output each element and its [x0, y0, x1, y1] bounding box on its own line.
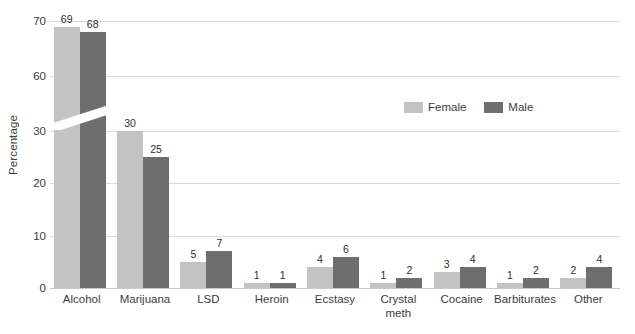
bar-group: 12 — [497, 0, 549, 289]
bar-barbiturates-male — [523, 278, 549, 288]
bar-cocaine-male — [460, 267, 486, 288]
y-tick-label-70: 70 — [6, 15, 46, 27]
y-tick-label-0: 0 — [6, 282, 46, 294]
bar-group: 6968 — [54, 0, 106, 289]
bar-value-label: 4 — [454, 253, 492, 265]
bar-value-label: 2 — [390, 264, 428, 276]
legend-item-male[interactable]: Male — [484, 101, 533, 113]
bar-value-label: 2 — [517, 264, 555, 276]
legend-label: Male — [508, 101, 533, 113]
bar-lsd-female — [180, 262, 206, 288]
x-label-other: Other — [551, 293, 626, 307]
bar-alcohol-male — [80, 32, 106, 288]
bar-other-male — [586, 267, 612, 288]
bar-barbiturates-female — [497, 283, 523, 288]
bar-ecstasy-male — [333, 257, 359, 288]
bar-value-label: 6 — [327, 243, 365, 255]
bar-heroin-male — [270, 283, 296, 288]
bar-group: 12 — [370, 0, 422, 289]
y-tick-label-20: 20 — [6, 177, 46, 189]
x-axis-labels: AlcoholMarijuanaLSDHeroinEcstasyCrystalm… — [50, 293, 620, 334]
legend-item-female[interactable]: Female — [404, 101, 466, 113]
bar-value-label: 30 — [111, 117, 149, 129]
bar-chart: Percentage 01020306070 69683025571146123… — [0, 0, 635, 334]
bar-crystal-meth-male — [396, 278, 422, 288]
bar-group: 11 — [244, 0, 296, 289]
bar-other-female — [560, 278, 586, 288]
y-axis-ticks: 01020306070 — [0, 0, 46, 334]
bar-value-label: 25 — [137, 143, 175, 155]
y-tick-label-60: 60 — [6, 70, 46, 82]
bar-heroin-female — [244, 283, 270, 288]
bar-marijuana-male — [143, 157, 169, 288]
y-tick-label-10: 10 — [6, 230, 46, 242]
bars-layer: 6968302557114612341224 — [50, 0, 620, 289]
bar-lsd-male — [206, 251, 232, 288]
bar-cocaine-female — [434, 272, 460, 288]
y-tick-label-30: 30 — [6, 125, 46, 137]
bar-group: 3025 — [117, 0, 169, 289]
bar-alcohol-female — [54, 27, 80, 289]
legend-swatch-icon — [404, 102, 423, 113]
bar-crystal-meth-female — [370, 283, 396, 288]
bar-value-label: 7 — [200, 237, 238, 249]
bar-ecstasy-female — [307, 267, 333, 288]
bar-group: 24 — [560, 0, 612, 289]
bar-value-label: 1 — [264, 269, 302, 281]
legend-label: Female — [428, 101, 466, 113]
chart-legend: FemaleMale — [404, 101, 533, 113]
bar-group: 34 — [434, 0, 486, 289]
legend-swatch-icon — [484, 102, 503, 113]
bar-group: 46 — [307, 0, 359, 289]
bar-group: 57 — [180, 0, 232, 289]
bar-value-label: 68 — [74, 18, 112, 30]
bar-value-label: 4 — [580, 253, 618, 265]
